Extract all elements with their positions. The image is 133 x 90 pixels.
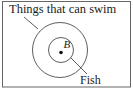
point-b-label: B — [64, 38, 71, 50]
outer-set-circle — [33, 23, 88, 78]
euler-diagram: Things that can swim B Fish — [0, 0, 133, 90]
outer-set-label: Things that can swim — [9, 2, 117, 16]
inner-set-label: Fish — [80, 73, 101, 87]
outer-set-leader-line — [24, 17, 38, 29]
inner-set-leader-line — [71, 58, 87, 74]
point-b-dot — [59, 51, 63, 55]
diagram-canvas: Things that can swim B Fish — [0, 0, 133, 90]
